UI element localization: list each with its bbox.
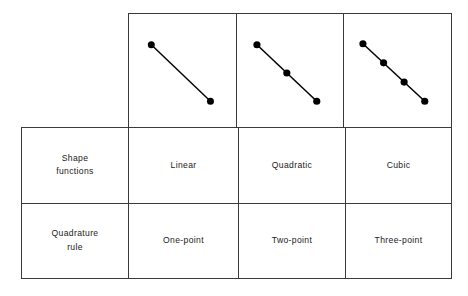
table-row-shape-functions: Shape functions Linear Quadratic Cubic — [22, 128, 451, 204]
cubic-element-svg — [344, 14, 451, 127]
element-sketch-quadratic — [237, 14, 345, 127]
cell-shape-function-quadratic: Quadratic — [239, 128, 346, 203]
element-family-figure: Shape functions Linear Quadratic Cubic Q… — [0, 0, 468, 296]
element-sketch-cubic — [344, 14, 451, 127]
element-sketch-linear — [129, 14, 237, 127]
linear-node-1 — [148, 41, 155, 48]
cell-shape-function-cubic-label: Cubic — [387, 159, 411, 172]
cubic-node-3 — [401, 79, 408, 86]
cubic-node-4 — [422, 98, 429, 105]
table-row-quadrature-rule: Quadrature rule One-point Two-point Thre… — [22, 204, 451, 279]
row-header-quadrature-rule: Quadrature rule — [22, 204, 129, 279]
row-header-quadrature-rule-label: Quadrature rule — [52, 227, 99, 254]
cubic-node-1 — [360, 40, 367, 47]
cubic-node-2 — [380, 59, 387, 66]
cell-shape-function-linear: Linear — [129, 128, 239, 203]
quadratic-element-svg — [237, 14, 344, 127]
cell-quadrature-one-point: One-point — [129, 204, 239, 279]
linear-element-line — [151, 45, 210, 102]
quadratic-node-1 — [253, 41, 260, 48]
element-sketch-row — [128, 13, 452, 127]
cell-shape-function-linear-label: Linear — [171, 159, 197, 172]
cell-quadrature-three-point: Three-point — [346, 204, 451, 279]
properties-table: Shape functions Linear Quadratic Cubic Q… — [21, 127, 452, 279]
cubic-element-line — [363, 44, 425, 101]
cell-shape-function-cubic: Cubic — [346, 128, 451, 203]
linear-node-2 — [207, 98, 214, 105]
cell-quadrature-three-point-label: Three-point — [375, 234, 423, 247]
linear-element-svg — [129, 14, 236, 127]
quadratic-node-3 — [313, 98, 320, 105]
cell-shape-function-quadratic-label: Quadratic — [272, 159, 312, 172]
cell-quadrature-two-point-label: Two-point — [272, 234, 312, 247]
quadratic-node-2 — [283, 69, 290, 76]
cell-quadrature-one-point-label: One-point — [163, 234, 204, 247]
cell-quadrature-two-point: Two-point — [239, 204, 346, 279]
row-header-shape-functions-label: Shape functions — [56, 152, 94, 179]
row-header-shape-functions: Shape functions — [22, 128, 129, 203]
